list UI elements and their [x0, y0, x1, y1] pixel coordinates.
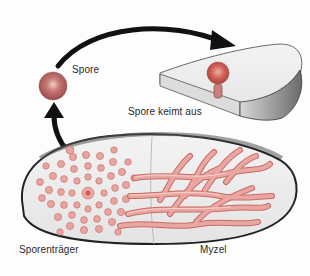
label-mycelium: Myzel — [200, 244, 227, 255]
label-sporangiophore: Sporenträger — [19, 244, 79, 255]
arrow-sporangiophore-to-spore — [44, 102, 68, 152]
label-spore-germinates: Spore keimt aus — [128, 106, 202, 117]
label-spore: Spore — [72, 64, 99, 75]
spore-illustration — [39, 72, 67, 100]
fungal-life-cycle-diagram: Spore Spore keimt aus Sporenträger Myzel — [0, 0, 310, 276]
diagram-illustration — [0, 0, 310, 276]
